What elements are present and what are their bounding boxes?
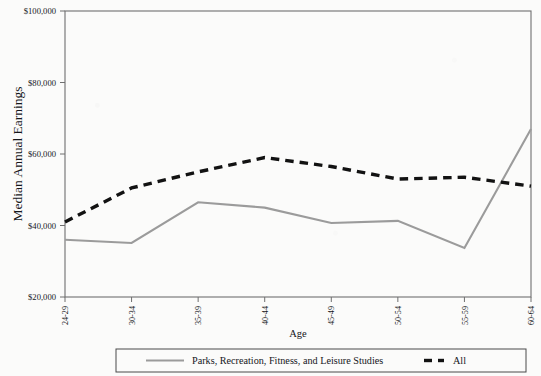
earnings-by-age-line-chart: $20,000$40,000$60,000$80,000$100,000 Med…: [0, 0, 541, 376]
y-axis-tick-label: $60,000: [28, 149, 56, 159]
x-axis-tick-group: 24-2930-3435-3940-4445-4950-5455-5960-64: [61, 297, 536, 325]
x-axis-tick-label: 50-54: [394, 306, 403, 325]
x-axis-title: Age: [289, 328, 307, 339]
x-axis-tick-label: 40-44: [261, 306, 270, 325]
y-axis-tick-group: $20,000$40,000$60,000$80,000$100,000: [24, 6, 65, 302]
y-axis-tick-label: $100,000: [24, 6, 56, 16]
x-axis-tick-label: 35-39: [194, 306, 203, 325]
chart-legend: Parks, Recreation, Fitness, and Leisure …: [116, 349, 526, 372]
y-axis-tick-label: $20,000: [28, 292, 56, 302]
chart-canvas: $20,000$40,000$60,000$80,000$100,000 Med…: [0, 0, 541, 376]
plot-area-border: [65, 11, 531, 297]
y-axis-tick-label: $80,000: [28, 78, 56, 88]
y-axis-tick-label: $40,000: [28, 221, 56, 231]
legend-label-parks: Parks, Recreation, Fitness, and Leisure …: [192, 355, 383, 366]
data-series-layer: [65, 129, 531, 248]
x-axis-tick-label: 55-59: [461, 306, 470, 325]
series-line-1: [65, 158, 531, 222]
x-axis-tick-label: 24-29: [61, 306, 70, 325]
x-axis-tick-label: 30-34: [128, 306, 137, 325]
y-axis-title: Median Annual Earnings: [10, 87, 25, 222]
legend-label-all: All: [453, 355, 466, 366]
x-axis-tick-label: 60-64: [527, 306, 536, 325]
x-axis-tick-label: 45-49: [327, 306, 336, 325]
